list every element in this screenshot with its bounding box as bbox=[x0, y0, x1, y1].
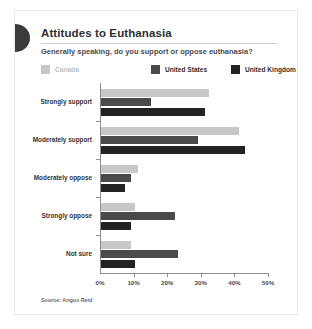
legend-swatch-icon bbox=[231, 65, 240, 74]
x-axis-line bbox=[100, 273, 269, 274]
bar-united-states bbox=[101, 212, 175, 220]
x-axis-tick-label: 0% bbox=[86, 279, 114, 286]
legend-item-label: United Kingdom bbox=[245, 66, 296, 73]
x-axis-tick bbox=[268, 274, 269, 277]
screenshot-root: Attitudes to Euthanasia Generally speaki… bbox=[0, 0, 312, 329]
source-note: Source: Angus Reid bbox=[41, 297, 92, 303]
y-axis-category-label: Moderately support bbox=[15, 136, 92, 143]
y-axis-category-label: Not sure bbox=[15, 250, 92, 257]
x-axis-tick bbox=[167, 274, 168, 277]
legend-swatch-icon bbox=[41, 65, 50, 74]
page-title: Attitudes to Euthanasia bbox=[41, 27, 172, 39]
decorative-half-circle bbox=[15, 24, 30, 52]
x-axis-tick-label: 20% bbox=[153, 279, 181, 286]
title-divider bbox=[41, 43, 277, 44]
x-axis-tick-label: 30% bbox=[187, 279, 215, 286]
bar-united-kingdom bbox=[101, 108, 205, 116]
bar-united-kingdom bbox=[101, 260, 135, 268]
x-axis-tick bbox=[234, 274, 235, 277]
x-axis-tick-label: 10% bbox=[120, 279, 148, 286]
bar-united-states bbox=[101, 98, 151, 106]
y-axis-tick bbox=[96, 197, 100, 198]
x-axis-tick-label: 50% bbox=[254, 279, 282, 286]
y-axis-line bbox=[100, 83, 101, 273]
legend-item-united-states: United States bbox=[151, 63, 207, 75]
y-axis-tick bbox=[96, 235, 100, 236]
bar-canada bbox=[101, 241, 131, 249]
bar-united-states bbox=[101, 250, 178, 258]
y-axis-category-label: Moderately oppose bbox=[15, 174, 92, 181]
legend-item-label: United States bbox=[165, 66, 207, 73]
x-axis-tick-label: 40% bbox=[220, 279, 248, 286]
bar-canada bbox=[101, 165, 138, 173]
y-axis-tick bbox=[96, 159, 100, 160]
bar-united-kingdom bbox=[101, 146, 245, 154]
y-axis-tick bbox=[96, 121, 100, 122]
chart-subtitle: Generally speaking, do you support or op… bbox=[41, 47, 253, 56]
chart-card: Attitudes to Euthanasia Generally speaki… bbox=[14, 10, 298, 315]
legend-item-united-kingdom: United Kingdom bbox=[231, 63, 296, 75]
bar-canada bbox=[101, 89, 209, 97]
x-axis-tick bbox=[134, 274, 135, 277]
x-axis-tick bbox=[201, 274, 202, 277]
legend-item-canada: Canada bbox=[41, 63, 79, 75]
bar-united-kingdom bbox=[101, 184, 125, 192]
bar-united-states bbox=[101, 174, 131, 182]
y-axis-category-label: Strongly oppose bbox=[15, 212, 92, 219]
bar-united-kingdom bbox=[101, 222, 131, 230]
legend-swatch-icon bbox=[151, 65, 160, 74]
y-axis-category-label: Strongly support bbox=[15, 98, 92, 105]
legend-item-label: Canada bbox=[55, 66, 79, 73]
chart-legend: CanadaUnited StatesUnited Kingdom bbox=[41, 63, 291, 77]
bar-united-states bbox=[101, 136, 198, 144]
chart-plot-area: 0%10%20%30%40%50%Strongly supportModerat… bbox=[15, 11, 299, 316]
bar-canada bbox=[101, 127, 239, 135]
bar-canada bbox=[101, 203, 135, 211]
